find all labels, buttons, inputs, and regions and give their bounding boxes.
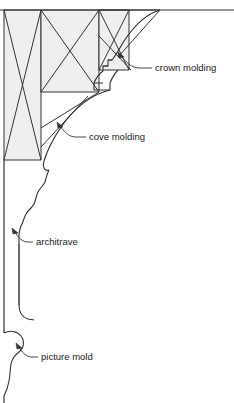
picture-mold-profile bbox=[4, 331, 23, 396]
annotation-cove-molding: cove molding bbox=[57, 122, 145, 142]
annotation-layer: crown molding cove molding architrave pi… bbox=[12, 52, 216, 362]
annotation-crown-molding: crown molding bbox=[118, 52, 216, 73]
architrave-label: architrave bbox=[36, 236, 78, 247]
architrave-body bbox=[19, 235, 34, 320]
cornice-drawing: crown molding cove molding architrave pi… bbox=[0, 0, 234, 403]
cove-molding-foot bbox=[43, 161, 49, 170]
cornice-section-diagram: crown molding cove molding architrave pi… bbox=[0, 0, 234, 403]
architrave-profile bbox=[19, 170, 49, 235]
framing-diagonal-strut-cove bbox=[41, 92, 99, 128]
architrave-arrowhead bbox=[12, 228, 18, 234]
annotation-picture-mold: picture mold bbox=[16, 343, 93, 362]
picture-mold-label: picture mold bbox=[41, 351, 93, 362]
cove-molding-label: cove molding bbox=[89, 131, 145, 142]
picture-mold-arrowhead bbox=[16, 343, 22, 349]
annotation-architrave: architrave bbox=[12, 228, 78, 247]
crown-molding-label: crown molding bbox=[155, 62, 216, 73]
cove-molding-profile bbox=[44, 90, 110, 161]
